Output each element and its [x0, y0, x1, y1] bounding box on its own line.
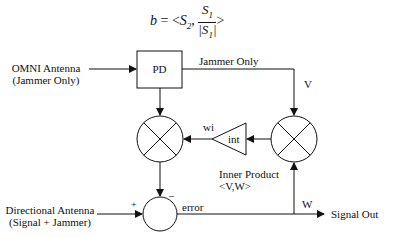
omni-line2: (Jammer Only)	[4, 74, 88, 86]
int-label: int	[228, 133, 240, 145]
pd-label: PD	[137, 63, 182, 75]
sum-node	[143, 197, 177, 231]
diagram-canvas: b = <S2, S1|S1|>	[0, 0, 397, 237]
omni-antenna-label: OMNI Antenna (Jammer Only)	[4, 62, 88, 86]
inner-product-line2: <V,W>	[219, 180, 279, 192]
w-label: W	[302, 198, 312, 210]
directional-line1: Directional Antenna	[2, 204, 98, 216]
jammer-only-label: Jammer Only	[199, 55, 259, 67]
directional-line2: (Signal + Jammer)	[2, 216, 98, 228]
minus-sign: –	[169, 190, 174, 202]
error-label: error	[182, 201, 203, 213]
wi-label: wi	[203, 121, 214, 133]
signal-out-label: Signal Out	[331, 208, 378, 220]
jammer-only-path	[182, 69, 294, 115]
inner-product-line1: Inner Product	[219, 168, 279, 180]
inner-product-label: Inner Product <V,W>	[219, 168, 279, 192]
directional-antenna-label: Directional Antenna (Signal + Jammer)	[2, 204, 98, 228]
plus-sign: +	[131, 199, 137, 211]
omni-line1: OMNI Antenna	[4, 62, 88, 74]
v-label: V	[304, 78, 312, 90]
